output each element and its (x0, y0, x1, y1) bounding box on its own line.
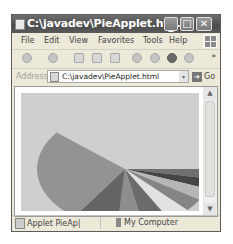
title-bar[interactable]: C:\javadev\PieApplet.ht... _ □ ✕ (12, 15, 220, 33)
go-arrow-icon: ➔ (192, 72, 202, 82)
address-dropdown-icon[interactable]: ▾ (179, 71, 188, 82)
computer-icon (116, 218, 121, 227)
forward-icon[interactable] (48, 53, 58, 63)
window-title: C:\javadev\PieApplet.ht... (27, 17, 180, 30)
ie-page-icon (15, 19, 25, 30)
pie-applet[interactable] (21, 93, 199, 211)
menu-favorites[interactable]: Favorites (98, 36, 134, 45)
home-icon[interactable] (110, 53, 120, 63)
media-icon[interactable] (167, 53, 177, 63)
search-icon[interactable] (132, 53, 142, 63)
menu-tools[interactable]: Tools (143, 36, 163, 45)
minimize-icon: _ (165, 18, 177, 30)
status-left-text: Applet PieAp| (27, 219, 81, 228)
status-zone-text: My Computer (124, 218, 178, 227)
close-icon: ✕ (197, 18, 211, 30)
stop-icon[interactable] (74, 53, 84, 63)
address-value: C:\javadev\PieApplet.html (62, 72, 159, 81)
status-bar: Applet PieAp| My Computer (12, 215, 220, 231)
pie-chart (21, 93, 199, 211)
browser-window: C:\javadev\PieApplet.ht... _ □ ✕ File Ed… (11, 14, 221, 232)
menu-view[interactable]: View (69, 36, 88, 45)
standard-toolbar: » (12, 50, 220, 69)
menu-file[interactable]: File (21, 36, 34, 45)
address-input[interactable]: C:\javadev\PieApplet.html ▾ (47, 70, 189, 83)
address-bar: Address C:\javadev\PieApplet.html ▾ ➔Go (12, 69, 220, 85)
address-label: Address (16, 72, 48, 81)
page-icon (50, 72, 59, 82)
scroll-thumb[interactable] (205, 101, 215, 197)
back-icon[interactable] (22, 53, 32, 63)
toolbar-overflow-icon[interactable]: » (211, 52, 216, 60)
page-content: ▲ ▼ (14, 86, 218, 217)
status-applet: Applet PieAp| (15, 218, 81, 229)
history-icon[interactable] (184, 53, 194, 63)
menu-bar: File Edit View Favorites Tools Help (12, 33, 220, 50)
applet-icon (15, 218, 25, 229)
refresh-icon[interactable] (92, 53, 102, 63)
maximize-icon: □ (181, 18, 193, 30)
go-button[interactable]: ➔Go (192, 71, 215, 83)
minimize-button[interactable]: _ (164, 17, 178, 31)
go-label: Go (204, 72, 215, 81)
status-divider (100, 217, 101, 229)
vertical-scrollbar[interactable]: ▲ ▼ (203, 87, 217, 216)
scroll-up-icon[interactable]: ▲ (204, 87, 216, 100)
close-button[interactable]: ✕ (196, 17, 212, 31)
menu-help[interactable]: Help (169, 36, 187, 45)
maximize-button[interactable]: □ (180, 17, 194, 31)
menu-edit[interactable]: Edit (44, 36, 60, 45)
favorites-icon[interactable] (150, 53, 160, 63)
status-zone: My Computer (116, 218, 178, 227)
windows-logo-icon (203, 34, 217, 48)
